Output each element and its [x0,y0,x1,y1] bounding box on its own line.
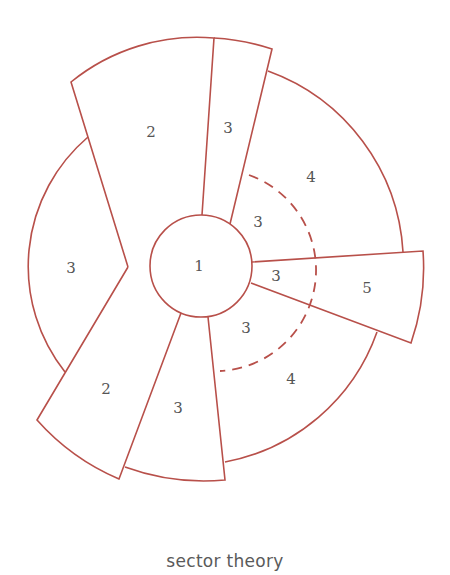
label-left-sector: 3 [66,259,76,277]
zone-lower-right-sector [225,332,377,462]
sector-theory-diagram: 1 2 3 4 3 3 5 3 4 3 2 3 [0,0,450,575]
label-upper-left-wedge: 2 [146,123,156,141]
zone-upper-right-sector [268,71,403,252]
label-upper-right-sector: 4 [306,168,316,186]
label-center: 1 [194,257,204,275]
diagram-caption: sector theory [0,551,450,571]
zone-upper-left-wedge [71,37,214,267]
zone-left-sector [28,137,88,372]
label-inner-upper-right: 3 [253,213,263,231]
zone-lower-left-wedge [37,267,181,479]
label-lower-right-sector: 4 [286,370,296,388]
label-inner-right: 3 [271,267,281,285]
label-upper-narrow-wedge: 3 [223,119,233,137]
label-right-wedge: 5 [362,279,372,297]
label-lower-left-wedge: 2 [101,380,111,398]
zone-right-wedge [251,251,424,343]
label-inner-lower-right: 3 [241,319,251,337]
label-lower-wedge: 3 [173,399,183,417]
